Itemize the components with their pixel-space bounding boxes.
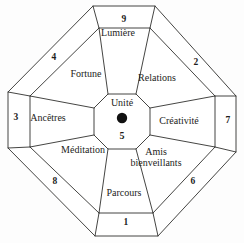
bagua-diagram: 9 2 7 6 1 8 3 4 Lumière Relations Créati… [0,0,244,243]
center-dot-icon [117,113,127,123]
bagua-geometry [0,0,244,243]
